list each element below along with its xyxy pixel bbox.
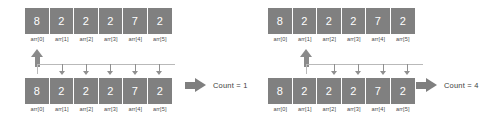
array-cell: 2	[391, 78, 416, 104]
array-index-label: arr[3]	[342, 36, 367, 42]
array-index-label: arr[0]	[268, 106, 293, 112]
array-index-label: arr[0]	[25, 36, 50, 42]
array-cell: 2	[50, 78, 75, 104]
count-result-label: Count = 1	[213, 81, 248, 90]
array-index-label: arr[0]	[25, 106, 50, 112]
array-cell: 2	[99, 8, 124, 34]
array-index-label: arr[2]	[317, 106, 342, 112]
array-cell: 7	[123, 78, 148, 104]
array-cell: 7	[123, 8, 148, 34]
count-result-label: Count = 4	[444, 81, 479, 90]
array-index-label: arr[5]	[148, 36, 173, 42]
array-cell: 2	[74, 78, 99, 104]
connector-line	[37, 64, 175, 65]
bottom-array-labels: arr[0] arr[1] arr[2] arr[3] arr[4] arr[5…	[25, 106, 172, 112]
bottom-array-labels: arr[0] arr[1] arr[2] arr[3] arr[4] arr[5…	[268, 106, 415, 112]
array-cell: 2	[342, 78, 367, 104]
array-cell: 8	[25, 78, 50, 104]
array-cell: 2	[317, 78, 342, 104]
array-index-label: arr[4]	[123, 36, 148, 42]
top-array: 8 2 2 2 7 2	[25, 8, 172, 34]
array-index-label: arr[5]	[391, 106, 416, 112]
array-cell: 2	[99, 78, 124, 104]
array-cell: 2	[391, 8, 416, 34]
diagram-panel-step-1: 8 2 2 2 7 2 arr[0] arr[1] arr[2] arr[3] …	[0, 0, 248, 123]
array-index-label: arr[1]	[50, 106, 75, 112]
bottom-array: 8 2 2 2 7 2	[268, 78, 415, 104]
array-cell: 2	[148, 8, 173, 34]
array-index-label: arr[5]	[148, 106, 173, 112]
result-block-arrow-icon	[416, 78, 437, 93]
array-cell: 2	[317, 8, 342, 34]
array-index-label: arr[3]	[99, 36, 124, 42]
array-index-label: arr[2]	[74, 36, 99, 42]
connector-line	[306, 64, 423, 65]
array-index-label: arr[2]	[74, 106, 99, 112]
result-group: Count = 1	[185, 78, 248, 93]
top-array: 8 2 2 2 7 2	[268, 8, 415, 34]
result-block-arrow-icon	[185, 78, 206, 93]
array-cell: 2	[50, 8, 75, 34]
array-cell: 2	[74, 8, 99, 34]
array-cell: 2	[293, 78, 318, 104]
top-array-labels: arr[0] arr[1] arr[2] arr[3] arr[4] arr[5…	[25, 36, 172, 42]
array-cell: 7	[366, 78, 391, 104]
array-index-label: arr[1]	[293, 36, 318, 42]
array-cell: 7	[366, 8, 391, 34]
array-cell: 2	[342, 8, 367, 34]
array-cell: 8	[268, 8, 293, 34]
array-index-label: arr[4]	[366, 106, 391, 112]
connector-riser	[37, 64, 38, 74]
array-cell: 8	[25, 8, 50, 34]
array-index-label: arr[1]	[50, 36, 75, 42]
bottom-array: 8 2 2 2 7 2	[25, 78, 172, 104]
array-index-label: arr[4]	[366, 36, 391, 42]
block-arrow-point	[426, 78, 437, 92]
block-arrow-point	[195, 78, 206, 92]
comparison-connector	[37, 64, 175, 78]
array-index-label: arr[2]	[317, 36, 342, 42]
array-index-label: arr[3]	[99, 106, 124, 112]
array-index-label: arr[5]	[391, 36, 416, 42]
comparison-connector	[306, 64, 423, 78]
array-cell: 2	[148, 78, 173, 104]
array-cell: 8	[268, 78, 293, 104]
array-index-label: arr[0]	[268, 36, 293, 42]
array-index-label: arr[1]	[293, 106, 318, 112]
array-index-label: arr[4]	[123, 106, 148, 112]
array-index-label: arr[3]	[342, 106, 367, 112]
result-group: Count = 4	[416, 78, 479, 93]
top-array-labels: arr[0] arr[1] arr[2] arr[3] arr[4] arr[5…	[268, 36, 415, 42]
connector-riser	[306, 64, 307, 74]
diagram-panel-step-2: 8 2 2 2 7 2 arr[0] arr[1] arr[2] arr[3] …	[248, 0, 495, 123]
array-cell: 2	[293, 8, 318, 34]
diagram-canvas: 8 2 2 2 7 2 arr[0] arr[1] arr[2] arr[3] …	[0, 0, 495, 123]
